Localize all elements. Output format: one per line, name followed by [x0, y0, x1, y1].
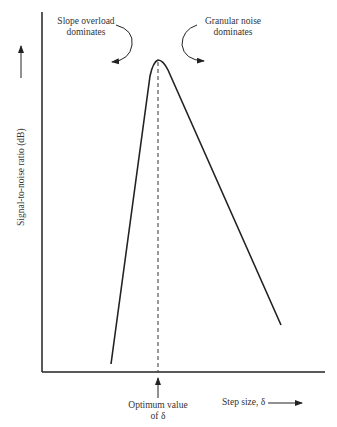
optimum-line1: Optimum value [120, 400, 196, 411]
slope-overload-line1: Slope overload [54, 16, 118, 27]
snr-curve [111, 60, 281, 364]
granular-noise-line2: dominates [200, 27, 266, 38]
optimum-line2: of δ [120, 411, 196, 422]
slope-overload-label: Slope overload dominates [54, 16, 118, 38]
granular-noise-line1: Granular noise [200, 16, 266, 27]
optimum-label: Optimum value of δ [120, 400, 196, 422]
slope-overload-line2: dominates [54, 27, 118, 38]
granular-noise-label: Granular noise dominates [200, 16, 266, 38]
x-axis-label: Step size, δ [222, 397, 265, 408]
diagram-canvas [0, 0, 337, 427]
y-axis-label: Signal-to-noise ratio (dB) [16, 128, 26, 226]
